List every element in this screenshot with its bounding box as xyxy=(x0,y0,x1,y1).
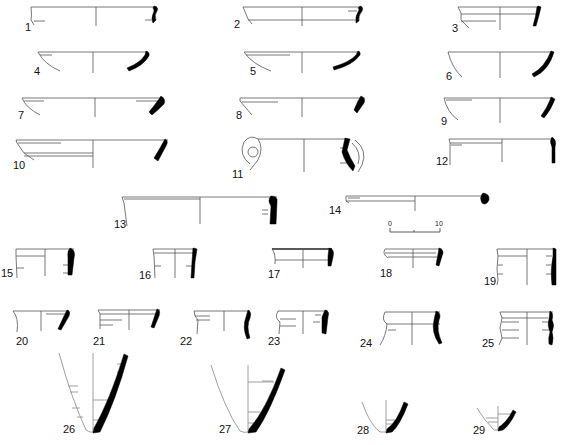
section-5 xyxy=(333,51,360,70)
figure-label-4: 4 xyxy=(34,66,40,77)
section-6 xyxy=(532,51,554,77)
section-10 xyxy=(154,139,167,161)
section-15 xyxy=(68,248,75,275)
figure-17 xyxy=(272,249,332,268)
figure-1 xyxy=(31,7,157,26)
figure-16 xyxy=(153,249,196,278)
figure-22 xyxy=(194,311,250,334)
figure-label-20: 20 xyxy=(16,336,28,347)
section-11 xyxy=(342,138,355,171)
figure-24 xyxy=(380,312,440,345)
section-8 xyxy=(354,96,365,113)
pottery-plate-drawing xyxy=(0,0,563,445)
scale-bar-end-label: 10 xyxy=(435,220,443,227)
figure-9 xyxy=(444,98,553,123)
figure-25 xyxy=(499,312,553,345)
section-21 xyxy=(151,309,160,328)
figure-label-18: 18 xyxy=(380,268,392,279)
figure-label-15: 15 xyxy=(1,268,13,279)
figure-label-9: 9 xyxy=(441,116,447,127)
section-26 xyxy=(93,354,128,433)
figure-label-21: 21 xyxy=(93,336,105,347)
section-23 xyxy=(322,310,329,334)
figure-15 xyxy=(16,249,74,278)
section-19 xyxy=(551,248,556,285)
section-28 xyxy=(386,402,408,433)
figure-label-11: 11 xyxy=(232,169,243,180)
figure-label-10: 10 xyxy=(13,160,25,171)
figure-23 xyxy=(276,311,328,334)
section-4 xyxy=(127,51,149,71)
section-2 xyxy=(356,6,363,23)
section-3 xyxy=(533,6,541,26)
figure-label-29: 29 xyxy=(473,425,485,436)
figure-label-14: 14 xyxy=(329,205,341,216)
scale-bar xyxy=(390,228,440,232)
figure-19 xyxy=(497,249,555,285)
figure-label-27: 27 xyxy=(219,424,231,435)
figure-2 xyxy=(243,7,362,26)
section-7 xyxy=(149,96,165,115)
figure-12 xyxy=(449,139,554,165)
figure-label-17: 17 xyxy=(268,269,280,280)
section-13 xyxy=(269,196,277,224)
figure-18 xyxy=(384,249,442,268)
figure-8 xyxy=(240,98,365,117)
figure-7 xyxy=(22,98,164,117)
section-29 xyxy=(498,410,516,431)
figure-label-23: 23 xyxy=(268,336,280,347)
figure-label-6: 6 xyxy=(446,71,452,82)
figure-label-3: 3 xyxy=(452,23,458,34)
section-9 xyxy=(541,97,555,118)
figure-label-22: 22 xyxy=(180,336,192,347)
figure-label-28: 28 xyxy=(357,425,369,436)
figure-label-7: 7 xyxy=(18,110,24,121)
section-25 xyxy=(548,311,553,345)
figure-label-2: 2 xyxy=(234,19,240,30)
section-20 xyxy=(58,310,70,330)
figure-label-25: 25 xyxy=(482,338,494,349)
figure-label-13: 13 xyxy=(114,219,126,230)
section-16 xyxy=(191,248,197,278)
figure-14 xyxy=(346,196,485,211)
figure-label-26: 26 xyxy=(63,424,75,435)
section-24 xyxy=(433,311,442,344)
figure-13 xyxy=(122,197,277,226)
figure-label-24: 24 xyxy=(360,338,372,349)
figure-21 xyxy=(98,310,160,330)
figure-label-5: 5 xyxy=(250,66,256,77)
figure-3 xyxy=(458,7,540,30)
figure-5 xyxy=(244,52,360,73)
figure-label-1: 1 xyxy=(25,22,31,33)
scale-bar-start-label: 0 xyxy=(388,220,392,227)
section-27 xyxy=(248,368,285,433)
section-22 xyxy=(244,310,250,339)
figure-label-19: 19 xyxy=(484,276,496,287)
section-18 xyxy=(436,248,443,266)
section-1 xyxy=(152,6,158,23)
figure-label-8: 8 xyxy=(236,110,242,121)
figure-label-16: 16 xyxy=(139,270,151,281)
section-14 xyxy=(481,193,489,204)
section-17 xyxy=(328,248,334,266)
section-12 xyxy=(551,137,556,163)
figure-10 xyxy=(16,140,168,168)
figure-label-12: 12 xyxy=(436,156,448,167)
